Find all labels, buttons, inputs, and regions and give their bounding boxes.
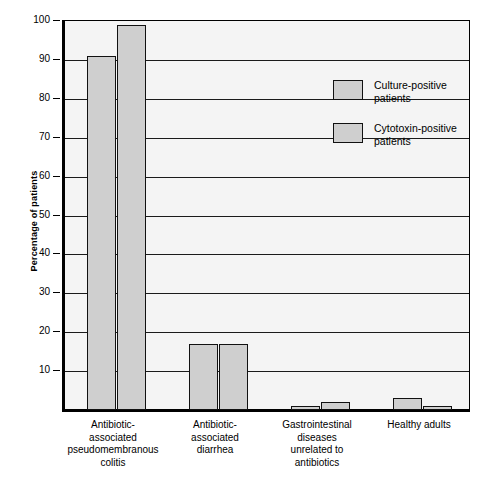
y-axis-tick xyxy=(53,176,60,177)
bar xyxy=(189,344,218,410)
x-axis-category-label-line: antibiotics xyxy=(295,457,339,468)
x-axis-category-label-line: Gastrointestinal xyxy=(282,419,351,430)
y-axis-tick-label: 90 xyxy=(16,54,50,64)
legend-label-culture-positive-line1: Culture-positive xyxy=(374,79,447,91)
legend-item-cytotoxin-positive: Cytotoxin-positivepatients xyxy=(333,122,492,148)
bar xyxy=(87,56,116,410)
chart-legend: Culture-positivepatients Cytotoxin-posit… xyxy=(333,79,492,165)
x-axis-category-label-line: associated xyxy=(191,432,239,443)
y-axis-tick-label: 80 xyxy=(16,93,50,103)
y-axis-tick-label: 60 xyxy=(16,171,50,181)
x-axis-category-label-line: unrelated to xyxy=(291,444,344,455)
bar xyxy=(117,25,146,410)
y-axis-title: Percentage of patients xyxy=(29,141,39,301)
y-axis-tick xyxy=(53,137,60,138)
x-axis-category-label-line: Antibiotic- xyxy=(91,419,135,430)
legend-label-culture-positive: Culture-positivepatients xyxy=(374,79,447,105)
x-axis-category-label-line: Antibiotic- xyxy=(193,419,237,430)
y-axis-tick xyxy=(53,59,60,60)
legend-label-cytotoxin-positive-line2: patients xyxy=(374,135,411,147)
x-axis-category-label: Healthy adults xyxy=(349,419,489,432)
y-axis-tick-label: 50 xyxy=(16,210,50,220)
y-axis-tick xyxy=(53,292,60,293)
legend-label-culture-positive-line2: patients xyxy=(374,92,411,104)
x-axis-category-label-line: diseases xyxy=(297,432,336,443)
bar-chart-figure: Percentage of patients 10203040506070809… xyxy=(0,0,492,477)
y-axis-tick xyxy=(53,98,60,99)
bar xyxy=(423,406,452,410)
x-axis-category-label-line: Healthy adults xyxy=(387,419,450,430)
bar xyxy=(291,406,320,410)
y-axis-tick xyxy=(53,370,60,371)
y-axis-tick xyxy=(53,253,60,254)
y-axis-tick xyxy=(53,215,60,216)
plot-area: Culture-positivepatients Cytotoxin-posit… xyxy=(62,20,470,412)
y-axis-tick-label: 10 xyxy=(16,365,50,375)
x-axis-category-label-line: associated xyxy=(89,432,137,443)
bar xyxy=(393,398,422,410)
legend-label-cytotoxin-positive: Cytotoxin-positivepatients xyxy=(374,122,457,148)
x-axis-category-label-line: diarrhea xyxy=(197,444,234,455)
y-axis-tick-label: 20 xyxy=(16,326,50,336)
y-axis-tick-label: 70 xyxy=(16,132,50,142)
y-axis-tick xyxy=(53,20,60,21)
x-axis-category-label-line: colitis xyxy=(100,457,125,468)
y-axis-tick-label: 30 xyxy=(16,287,50,297)
y-axis-tick-label: 100 xyxy=(16,15,50,25)
bar xyxy=(219,344,248,410)
y-axis-tick xyxy=(53,331,60,332)
legend-swatch-cytotoxin-positive xyxy=(333,123,363,143)
legend-swatch-culture-positive xyxy=(333,80,363,100)
y-axis-tick-label: 40 xyxy=(16,248,50,258)
bar xyxy=(321,402,350,410)
legend-item-culture-positive: Culture-positivepatients xyxy=(333,79,492,105)
legend-label-cytotoxin-positive-line1: Cytotoxin-positive xyxy=(374,122,457,134)
